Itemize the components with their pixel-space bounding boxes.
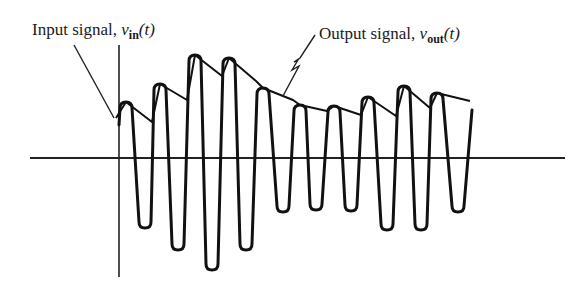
input-label-text: Input signal, bbox=[32, 20, 121, 39]
output-leader-line bbox=[283, 35, 315, 96]
input-signal-label: Input signal, vin(t) bbox=[32, 21, 155, 41]
input-label-sub: in bbox=[129, 28, 139, 42]
input-leader-line bbox=[74, 45, 114, 118]
output-signal-label: Output signal, vout(t) bbox=[319, 25, 460, 45]
waveform-diagram bbox=[0, 0, 584, 291]
input-label-arg: (t) bbox=[139, 20, 155, 39]
input-label-var: v bbox=[121, 20, 129, 39]
output-label-sub: out bbox=[427, 32, 444, 46]
output-label-var: v bbox=[420, 24, 428, 43]
output-label-text: Output signal, bbox=[319, 24, 420, 43]
output-label-arg: (t) bbox=[444, 24, 460, 43]
input-signal-waveform bbox=[119, 55, 472, 270]
